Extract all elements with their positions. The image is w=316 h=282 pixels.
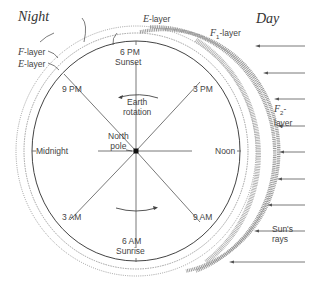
spoke-3am	[70, 151, 136, 220]
day-title: Day	[256, 14, 279, 24]
label-3pm: 3 PM	[193, 84, 213, 94]
label-3am: 3 AM	[62, 212, 81, 222]
label-9pm: 9 PM	[62, 84, 82, 94]
label-6pm: 6 PM	[120, 47, 140, 57]
label-6am: 6 AM	[122, 236, 141, 246]
f2-layer-label: F2-layer	[274, 104, 292, 128]
e-layer-top-label: E-layer	[143, 14, 170, 24]
f-layer-left-label: F-layer	[18, 47, 45, 57]
sun-rays	[232, 46, 305, 262]
north-pole-dot	[134, 149, 139, 154]
e-layer-left-label: E-layer	[18, 59, 45, 69]
ionosphere-diagram: Night Day E-layer F1-layer F-layer E-lay…	[0, 0, 316, 282]
earth-rotation-label: Earthrotation	[123, 97, 151, 117]
night-title: Night	[18, 12, 49, 22]
label-sunrise: Sunrise	[116, 246, 145, 256]
f1-layer-label: F1-layer	[210, 28, 241, 42]
sun-rays-label: Sun'srays	[272, 224, 293, 244]
day-f1-layer-band	[150, 27, 275, 271]
spoke-9am	[136, 151, 200, 222]
label-noon: Noon	[215, 146, 235, 156]
diagram-graphics	[0, 0, 316, 282]
label-sunset: Sunset	[115, 57, 141, 67]
north-pole-label: Northpole	[108, 131, 129, 151]
label-9am: 9 AM	[193, 212, 212, 222]
label-midnight: Midnight	[36, 146, 68, 156]
